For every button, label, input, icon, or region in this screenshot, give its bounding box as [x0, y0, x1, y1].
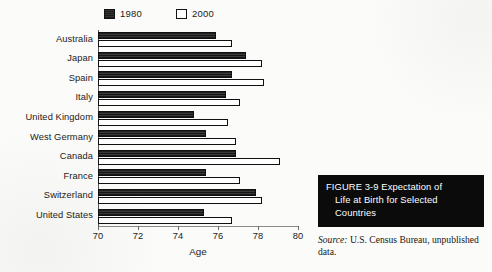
bar-2000-france: [98, 177, 240, 184]
bar-2000-west-germany: [98, 138, 236, 145]
tick-label-80: 80: [293, 231, 303, 241]
bar-2000-australia: [98, 40, 232, 47]
bar-row: United Kingdom: [98, 108, 298, 128]
bar-1980-spain: [98, 71, 232, 78]
tick-label-78: 78: [253, 231, 263, 241]
category-label-spain: Spain: [69, 73, 93, 83]
bar-2000-united-states: [98, 217, 232, 224]
legend-label-1980: 1980: [120, 8, 142, 19]
plot-area: AustraliaJapanSpainItalyUnited KingdomWe…: [98, 30, 298, 226]
category-label-west-germany: West Germany: [30, 132, 93, 142]
caption-line-2: Life at Birth for Selected: [326, 194, 476, 207]
bar-2000-italy: [98, 99, 240, 106]
bar-1980-canada: [98, 150, 236, 157]
category-label-japan: Japan: [67, 53, 93, 63]
bar-1980-australia: [98, 32, 216, 39]
tick-mark-74: [178, 226, 179, 230]
bar-row: Spain: [98, 69, 298, 89]
category-label-united-states: United States: [36, 210, 93, 220]
bar-row: Canada: [98, 148, 298, 168]
x-axis-line: [98, 226, 299, 227]
bar-row: Switzerland: [98, 187, 298, 207]
bar-row: France: [98, 167, 298, 187]
bar-row: West Germany: [98, 128, 298, 148]
bar-2000-spain: [98, 79, 264, 86]
bar-2000-canada: [98, 158, 280, 165]
tick-mark-80: [298, 226, 299, 230]
legend-entry-2000: 2000: [176, 8, 214, 19]
bar-1980-united-kingdom: [98, 111, 194, 118]
caption-line-3: Countries: [326, 207, 476, 220]
bar-row: Australia: [98, 30, 298, 50]
tick-label-74: 74: [173, 231, 183, 241]
source-note: Source: U.S. Census Bureau, unpublished …: [318, 234, 486, 259]
tick-label-70: 70: [93, 231, 103, 241]
legend-label-2000: 2000: [192, 8, 214, 19]
bar-row: Italy: [98, 89, 298, 109]
tick-mark-72: [138, 226, 139, 230]
figure-container: 1980 2000 AustraliaJapanSpainItalyUnited…: [0, 0, 492, 272]
bar-1980-switzerland: [98, 189, 256, 196]
figure-caption: FIGURE 3-9 Expectation of Life at Birth …: [318, 175, 484, 227]
chart-legend: 1980 2000: [104, 8, 214, 19]
caption-line-1: FIGURE 3-9 Expectation of: [326, 181, 476, 194]
category-label-australia: Australia: [56, 34, 93, 44]
category-label-canada: Canada: [60, 151, 93, 161]
legend-entry-1980: 1980: [104, 8, 142, 19]
source-label: Source:: [318, 234, 347, 245]
bar-1980-italy: [98, 91, 226, 98]
category-label-united-kingdom: United Kingdom: [25, 112, 93, 122]
category-label-france: France: [63, 171, 93, 181]
tick-mark-70: [98, 226, 99, 230]
tick-mark-78: [258, 226, 259, 230]
bar-2000-switzerland: [98, 197, 262, 204]
bar-1980-west-germany: [98, 130, 206, 137]
tick-label-72: 72: [133, 231, 143, 241]
bar-1980-japan: [98, 52, 246, 59]
tick-mark-76: [218, 226, 219, 230]
legend-swatch-1980: [104, 9, 115, 19]
bar-2000-japan: [98, 60, 262, 67]
bar-row: Japan: [98, 50, 298, 70]
bar-1980-united-states: [98, 209, 204, 216]
x-axis-label: Age: [189, 246, 206, 257]
category-label-italy: Italy: [75, 92, 93, 102]
tick-label-76: 76: [213, 231, 223, 241]
category-label-switzerland: Switzerland: [44, 190, 93, 200]
legend-swatch-2000: [176, 9, 187, 19]
bar-2000-united-kingdom: [98, 119, 228, 126]
bar-1980-france: [98, 169, 206, 176]
bar-row: United States: [98, 206, 298, 226]
